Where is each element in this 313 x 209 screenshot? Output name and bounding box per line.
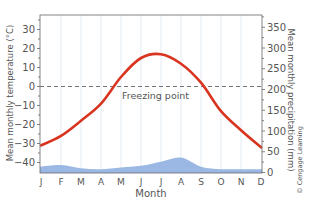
right-tick-label: 50 xyxy=(267,146,280,157)
left-tick-label: −20 xyxy=(14,119,35,130)
x-axis-title: Month xyxy=(135,188,166,199)
month-tick-label: F xyxy=(58,177,63,187)
left-axis-title: Mean monthly temperature (°C) xyxy=(5,25,15,162)
freezing-point-label: Freezing point xyxy=(122,90,189,101)
precipitation-area xyxy=(40,157,262,173)
month-tick-label: O xyxy=(217,177,224,187)
month-tick-label: J xyxy=(159,177,163,187)
left-tick-label: −10 xyxy=(14,100,35,111)
left-tick-label: 0 xyxy=(29,81,35,92)
month-tick-label: N xyxy=(238,177,245,187)
month-tick-label: S xyxy=(198,177,204,187)
month-tick-label: A xyxy=(98,177,105,187)
right-tick-label: 0 xyxy=(267,167,273,178)
left-tick-label: 30 xyxy=(22,24,35,35)
right-axis: 350300250200150100500 xyxy=(262,17,286,178)
right-tick-label: 150 xyxy=(267,105,286,116)
left-tick-label: −40 xyxy=(14,157,35,168)
month-tick-label: J xyxy=(139,177,143,187)
left-axis: 3020100−10−20−30−40 xyxy=(14,20,40,168)
month-tick-label: J xyxy=(39,177,43,187)
right-tick-label: 200 xyxy=(267,84,286,95)
right-tick-label: 300 xyxy=(267,43,286,54)
right-tick-label: 100 xyxy=(267,126,286,137)
climate-chart: 3020100−10−20−30−40 35030025020015010050… xyxy=(0,0,313,209)
copyright-label: © Cengage Learning xyxy=(296,126,304,194)
left-tick-label: 20 xyxy=(22,43,35,54)
left-tick-label: 10 xyxy=(22,62,35,73)
x-axis: JFMAMJJASOND xyxy=(39,177,265,187)
right-axis-title: Mean monthly precipitation (mm) xyxy=(286,29,296,172)
left-tick-label: −30 xyxy=(14,138,35,149)
month-tick-label: D xyxy=(258,177,265,187)
month-tick-label: M xyxy=(117,177,125,187)
month-tick-label: A xyxy=(178,177,185,187)
month-tick-label: M xyxy=(77,177,85,187)
right-tick-label: 250 xyxy=(267,63,286,74)
right-tick-label: 350 xyxy=(267,22,286,33)
